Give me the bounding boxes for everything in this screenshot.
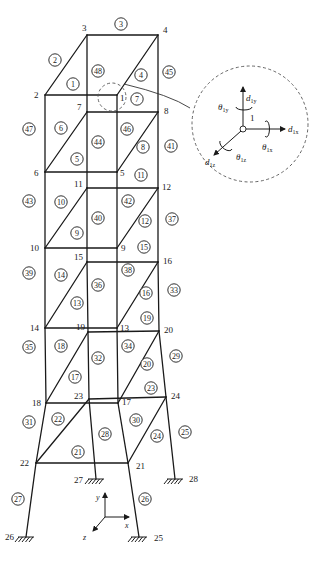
element-tag-9: 9 bbox=[71, 227, 83, 239]
space-frame-diagram: 1234567891011121314151617181920212223242… bbox=[0, 0, 320, 561]
fixed-support-icon bbox=[85, 479, 104, 484]
y-axis-label: y bbox=[95, 493, 100, 502]
svg-text:7: 7 bbox=[135, 95, 139, 104]
member-13-17 bbox=[117, 328, 118, 403]
svg-text:16: 16 bbox=[142, 289, 150, 298]
element-tag-10: 10 bbox=[55, 196, 67, 208]
member-5-8 bbox=[117, 112, 158, 172]
element-tag-13: 13 bbox=[71, 297, 83, 309]
node-label-9: 9 bbox=[121, 243, 126, 253]
node-label-23: 23 bbox=[74, 391, 84, 401]
element-tag-11: 11 bbox=[135, 169, 147, 181]
element-tag-36: 36 bbox=[92, 279, 104, 291]
node-label-11: 11 bbox=[74, 179, 83, 189]
node-label-6: 6 bbox=[34, 168, 39, 178]
element-tag-14: 14 bbox=[55, 269, 67, 281]
element-tag-42: 42 bbox=[122, 195, 134, 207]
label-theta1z: θ1z bbox=[236, 152, 246, 163]
element-tag-16: 16 bbox=[140, 287, 152, 299]
svg-text:1: 1 bbox=[71, 80, 75, 89]
element-tag-15: 15 bbox=[138, 241, 150, 253]
element-tag-33: 33 bbox=[168, 284, 180, 296]
member-16-20 bbox=[158, 262, 159, 331]
member-21-24 bbox=[128, 397, 166, 463]
svg-text:24: 24 bbox=[153, 432, 161, 441]
svg-text:18: 18 bbox=[57, 342, 65, 351]
member-1-4 bbox=[117, 35, 158, 95]
node-label-12: 12 bbox=[162, 182, 171, 192]
theta1z-rotation-icon bbox=[220, 141, 232, 151]
element-tag-29: 29 bbox=[170, 350, 182, 362]
member-20-24 bbox=[159, 331, 166, 397]
node-label-15: 15 bbox=[74, 252, 84, 262]
x-axis-label: x bbox=[124, 521, 129, 530]
node-label-3: 3 bbox=[82, 23, 87, 33]
label-d1z: d1z bbox=[205, 157, 216, 168]
element-tag-3: 3 bbox=[115, 18, 127, 30]
member-21-25 bbox=[128, 463, 139, 537]
node-label-1: 1 bbox=[120, 93, 125, 103]
z-axis-label: z bbox=[82, 533, 87, 542]
node-1-dof-detail: d1y d1x d1z θ1y θ1x θ1z 1 bbox=[192, 66, 308, 182]
element-tag-26: 26 bbox=[139, 493, 151, 505]
svg-text:35: 35 bbox=[25, 343, 33, 352]
element-tag-8: 8 bbox=[137, 141, 149, 153]
svg-text:39: 39 bbox=[25, 269, 33, 278]
svg-text:44: 44 bbox=[94, 138, 102, 147]
svg-text:9: 9 bbox=[75, 229, 79, 238]
member-18-22 bbox=[36, 403, 46, 463]
element-tag-19: 19 bbox=[141, 312, 153, 324]
node-label-20: 20 bbox=[164, 325, 174, 335]
node-label-27: 27 bbox=[74, 475, 84, 485]
svg-text:47: 47 bbox=[25, 125, 33, 134]
label-d1y: d1y bbox=[246, 93, 257, 104]
svg-text:4: 4 bbox=[139, 71, 143, 80]
svg-text:13: 13 bbox=[73, 299, 81, 308]
node-label-17: 17 bbox=[122, 397, 132, 407]
svg-text:19: 19 bbox=[143, 314, 151, 323]
element-tag-2: 2 bbox=[49, 54, 61, 66]
element-tag-44: 44 bbox=[92, 136, 104, 148]
element-tag-30: 30 bbox=[130, 414, 142, 426]
svg-text:41: 41 bbox=[167, 142, 175, 151]
element-tag-5: 5 bbox=[71, 153, 83, 165]
member-15-19 bbox=[87, 262, 88, 332]
svg-text:12: 12 bbox=[141, 217, 149, 226]
element-tag-39: 39 bbox=[23, 267, 35, 279]
svg-text:27: 27 bbox=[14, 495, 22, 504]
svg-text:34: 34 bbox=[124, 342, 132, 351]
member-22-26 bbox=[26, 463, 36, 537]
svg-text:46: 46 bbox=[123, 125, 131, 134]
node-label-14: 14 bbox=[30, 323, 40, 333]
element-tag-21: 21 bbox=[72, 446, 84, 458]
node-label-21: 21 bbox=[136, 461, 145, 471]
node-label-10: 10 bbox=[30, 243, 40, 253]
node-label-2: 2 bbox=[34, 90, 39, 100]
svg-text:10: 10 bbox=[57, 198, 65, 207]
svg-text:37: 37 bbox=[168, 215, 176, 224]
fixed-support-icon bbox=[128, 537, 147, 542]
node-label-24: 24 bbox=[171, 391, 181, 401]
node-label-8: 8 bbox=[164, 106, 169, 116]
node-label-16: 16 bbox=[163, 256, 173, 266]
element-tag-28: 28 bbox=[99, 428, 111, 440]
z-axis-arrow bbox=[93, 517, 105, 531]
svg-text:43: 43 bbox=[25, 197, 33, 206]
member-17-21 bbox=[118, 403, 128, 463]
element-tag-37: 37 bbox=[166, 213, 178, 225]
element-tag-46: 46 bbox=[121, 123, 133, 135]
svg-text:30: 30 bbox=[132, 416, 140, 425]
element-tag-17: 17 bbox=[69, 371, 81, 383]
element-tag-4: 4 bbox=[135, 69, 147, 81]
svg-text:26: 26 bbox=[141, 495, 149, 504]
svg-text:48: 48 bbox=[94, 67, 102, 76]
svg-text:6: 6 bbox=[59, 124, 63, 133]
node-label-26: 26 bbox=[5, 532, 15, 542]
svg-text:20: 20 bbox=[143, 360, 151, 369]
detail-node-label: 1 bbox=[250, 113, 255, 123]
node-label-13: 13 bbox=[120, 323, 130, 333]
element-tag-34: 34 bbox=[122, 340, 134, 352]
svg-text:14: 14 bbox=[57, 271, 65, 280]
member-24-28 bbox=[166, 397, 175, 479]
element-tag-22: 22 bbox=[52, 413, 64, 425]
